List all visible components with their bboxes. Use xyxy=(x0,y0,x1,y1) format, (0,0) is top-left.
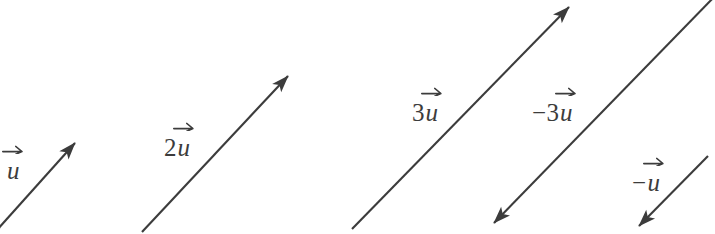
vector-label-u-symbol: u xyxy=(6,158,21,183)
vector-label-3u-symbol: u xyxy=(425,100,440,125)
vector-label-minus-3u-symbol: u xyxy=(559,100,574,125)
vector-label-3u-scalar: 3 xyxy=(412,99,425,126)
vector-label-minus-3u: −3u xyxy=(532,100,574,125)
vector-shaft-group xyxy=(0,0,715,234)
vector-label-2u-scalar: 2 xyxy=(164,134,177,161)
vector-diagram-canvas xyxy=(0,0,715,234)
vector-shaft-minus-3u xyxy=(494,0,715,223)
vector-label-minus-u-sign: − xyxy=(632,169,647,196)
vector-label-minus-u-symbol: u xyxy=(647,170,662,195)
vector-label-minus-3u-letter: u xyxy=(560,99,573,126)
vector-label-2u: 2u xyxy=(164,135,191,160)
vector-label-u: u xyxy=(6,158,21,183)
vector-label-minus-u: −u xyxy=(632,170,661,195)
vector-label-3u: 3u xyxy=(412,100,439,125)
vector-label-2u-letter: u xyxy=(178,134,191,161)
vector-label-u-letter: u xyxy=(7,157,20,184)
vector-label-3u-letter: u xyxy=(426,99,439,126)
vector-label-2u-symbol: u xyxy=(177,135,192,160)
vector-label-minus-3u-sign: − xyxy=(532,99,547,126)
vector-label-minus-u-letter: u xyxy=(648,169,661,196)
vector-figure: u 2u 3u −3u −u xyxy=(0,0,715,234)
vector-label-minus-3u-scalar: 3 xyxy=(547,99,560,126)
